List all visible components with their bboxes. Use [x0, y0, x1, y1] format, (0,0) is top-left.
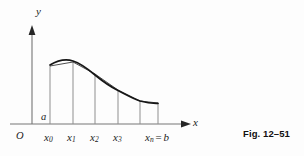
origin-label: O [16, 131, 24, 142]
tick-label-x0: x0 [44, 132, 53, 144]
tick-sub-x3: 3 [118, 135, 122, 144]
tick-sub-x2: 2 [95, 135, 99, 144]
tick-value-b: b [163, 131, 169, 143]
y-axis-label: y [36, 6, 41, 17]
figure-container: y x O a x0 x1 x2 x3 xn=b Fig. 12–51 [0, 0, 304, 156]
y-axis-arrowhead-icon [29, 25, 36, 35]
tick-label-x3: x3 [113, 132, 122, 144]
figure-caption: Fig. 12–51 [243, 128, 290, 139]
tick-label-xn: xn=b [145, 132, 169, 144]
tick-sub-x0: 0 [49, 135, 53, 144]
tick-label-x1: x1 [67, 132, 76, 144]
tick-label-x2: x2 [90, 132, 99, 144]
x-axis-label: x [193, 117, 198, 128]
tick-sub-x1: 1 [72, 135, 76, 144]
x-axis-arrowhead-icon [181, 121, 191, 128]
left-endpoint-label-a: a [41, 112, 46, 123]
function-curve [50, 60, 158, 103]
